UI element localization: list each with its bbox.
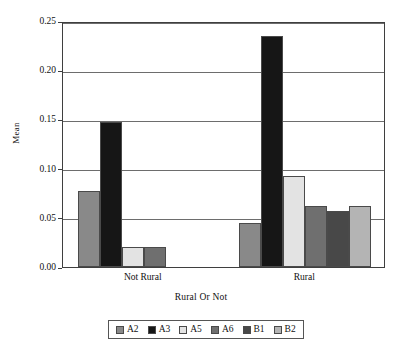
bar-a5-not-rural (122, 247, 144, 267)
bar-b2-rural (349, 206, 371, 267)
x-axis-tick-label: Rural (244, 272, 364, 282)
x-axis-title: Rural Or Not (0, 292, 402, 302)
bar-a2-rural (239, 223, 261, 267)
bar-a2-not-rural (78, 191, 100, 267)
bar-a3-not-rural (100, 122, 122, 267)
legend-swatch-icon (243, 326, 251, 334)
legend-swatch-icon (116, 326, 124, 334)
legend-item-b1: B1 (243, 325, 265, 335)
bar-a3-rural (261, 36, 283, 267)
y-axis-tick-label: 0.20 (8, 65, 56, 75)
legend-swatch-icon (148, 326, 156, 334)
legend-label: A5 (190, 325, 202, 335)
chart-legend: A2A3A5A6B1B2 (108, 320, 304, 339)
bars-layer (63, 23, 384, 267)
bar-b1-rural (327, 211, 349, 267)
y-axis-tick-label: 0.00 (8, 262, 56, 272)
legend-swatch-icon (179, 326, 187, 334)
legend-item-a5: A5 (179, 325, 202, 335)
legend-label: B1 (254, 325, 265, 335)
y-axis-title: Mean (11, 103, 21, 163)
y-axis-tick-label: 0.10 (8, 164, 56, 174)
legend-swatch-icon (274, 326, 282, 334)
bar-chart-figure: Mean 0.000.050.100.150.200.25 Not RuralR… (0, 0, 402, 354)
legend-swatch-icon (211, 326, 219, 334)
legend-item-b2: B2 (274, 325, 296, 335)
bar-a5-rural (283, 176, 305, 267)
legend-label: A3 (159, 325, 171, 335)
legend-label: B2 (285, 325, 296, 335)
y-axis-tick-label: 0.25 (8, 16, 56, 26)
legend-label: A6 (222, 325, 234, 335)
legend-item-a2: A2 (116, 325, 139, 335)
x-axis-tick-label: Not Rural (83, 272, 203, 282)
y-axis-tick-label: 0.15 (8, 114, 56, 124)
bar-a6-not-rural (144, 247, 166, 267)
y-axis-tick-label: 0.05 (8, 213, 56, 223)
plot-area (62, 22, 385, 268)
legend-item-a3: A3 (148, 325, 171, 335)
legend-label: A2 (127, 325, 139, 335)
legend-item-a6: A6 (211, 325, 234, 335)
bar-a6-rural (305, 206, 327, 267)
